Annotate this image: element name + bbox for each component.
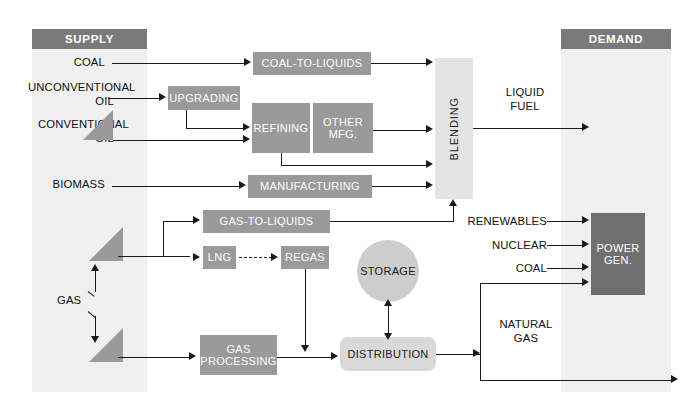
arrowhead-unconv-oil-to-upgrading xyxy=(159,93,166,101)
process-manufacturing[interactable]: MANUFACTURING xyxy=(248,175,372,198)
arrowhead-refining-to-blending xyxy=(426,160,433,168)
process-gas-to-liquids[interactable]: GAS-TO-LIQUIDS xyxy=(203,210,330,233)
arrowhead-coal-to-power-gen xyxy=(582,263,589,271)
distribution-label: DISTRIBUTION xyxy=(347,348,428,360)
connector-renewables-to-power-gen xyxy=(547,221,583,222)
demand-power-gen[interactable]: POWER GEN. xyxy=(591,213,645,295)
arrowhead-coal-to-ctl xyxy=(244,58,251,66)
diagram-canvas: SUPPLY DEMAND COAL UNCONVENTIONAL OIL CO… xyxy=(0,0,697,416)
connector-ctl-to-blending xyxy=(371,63,427,64)
connector-coal-to-ctl xyxy=(112,63,245,64)
connector-natural-gas-to-power-gen xyxy=(480,283,583,284)
arrowhead-natural-gas-to-demand xyxy=(671,375,678,383)
connector-gas-to-gtl xyxy=(163,221,194,222)
arrowhead-blending-to-demand xyxy=(582,123,589,131)
arrowhead-processing-to-distribution xyxy=(331,352,338,360)
process-lng[interactable]: LNG xyxy=(203,246,236,269)
connector-coal-to-power-gen xyxy=(547,268,583,269)
manufacturing-label: MANUFACTURING xyxy=(260,180,360,192)
arrowhead-natural-gas-to-power-gen xyxy=(582,278,589,286)
connector-biomass-to-manufacturing xyxy=(112,186,240,187)
arrowhead-nuclear-to-power-gen xyxy=(582,240,589,248)
lng-label: LNG xyxy=(208,251,232,263)
arrowhead-manufacturing-to-blending xyxy=(426,181,433,189)
connector-gas-riser xyxy=(163,221,164,257)
connector-regas-down xyxy=(305,269,306,347)
connector-natural-gas-to-demand xyxy=(480,380,672,381)
storage-label: STORAGE xyxy=(360,265,416,277)
connector-natural-gas-trunk xyxy=(480,283,481,380)
connector-gas-upper-trunk xyxy=(118,256,190,257)
connector-processing-to-distribution xyxy=(277,357,332,358)
process-storage[interactable]: STORAGE xyxy=(357,240,419,302)
source-label-coal: COAL xyxy=(38,56,105,70)
arrowhead-distribution-out xyxy=(473,349,480,357)
gas-to-liquids-label: GAS-TO-LIQUIDS xyxy=(220,215,314,227)
arrowhead-gas-to-gtl xyxy=(193,216,200,224)
demand-panel xyxy=(561,29,671,392)
connector-gtl-out xyxy=(330,221,454,222)
regas-label: REGAS xyxy=(285,251,325,263)
input-label-renewables: RENEWABLES xyxy=(460,215,547,229)
connector-nuclear-to-power-gen xyxy=(547,245,583,246)
output-label-liquid-fuel: LIQUID FUEL xyxy=(486,86,564,114)
connector-gas-lower-to-processing xyxy=(118,357,190,358)
connector-conv-oil-to-refining xyxy=(113,140,244,141)
process-distribution[interactable]: DISTRIBUTION xyxy=(340,337,436,371)
connector-refining-to-blending xyxy=(281,165,427,166)
arrowhead-renewables-to-power-gen xyxy=(582,216,589,224)
supply-panel-header: SUPPLY xyxy=(32,29,147,49)
demand-header-label: DEMAND xyxy=(589,33,644,45)
process-upgrading[interactable]: UPGRADING xyxy=(168,86,240,110)
process-refining[interactable]: REFINING xyxy=(252,103,310,153)
blending-label: BLENDING xyxy=(448,97,460,160)
other-mfg-label: OTHER MFG. xyxy=(323,116,363,141)
arrowhead-gas-lower-to-processing xyxy=(189,352,196,360)
demand-panel-header: DEMAND xyxy=(561,29,671,49)
gas-processing-label: GAS PROCESSING xyxy=(200,343,276,368)
input-label-nuclear: NUCLEAR xyxy=(465,239,547,253)
source-label-unconventional-oil: UNCONVENTIONAL OIL xyxy=(28,81,114,109)
process-other-mfg[interactable]: OTHER MFG. xyxy=(313,103,373,153)
connector-other-mfg-to-blending xyxy=(373,130,427,131)
arrowhead-lng-to-regas xyxy=(271,253,278,261)
arrowhead-other-mfg-to-blending xyxy=(426,125,433,133)
arrowhead-distribution-to-storage xyxy=(384,299,392,306)
process-coal-to-liquids[interactable]: COAL-TO-LIQUIDS xyxy=(253,52,371,75)
connector-upgrading-to-refining xyxy=(186,128,244,129)
connector-gas-to-lower-wedge xyxy=(95,316,96,338)
arrowhead-gas-to-lower-wedge xyxy=(91,336,99,343)
arrowhead-biomass-to-manufacturing xyxy=(239,181,246,189)
arrowhead-regas-down xyxy=(301,345,309,352)
connector-blending-to-demand xyxy=(473,128,583,129)
process-blending[interactable]: BLENDING xyxy=(435,58,473,199)
arrowhead-upgrading-to-refining xyxy=(243,123,250,131)
connector-refining-down xyxy=(281,153,282,165)
connector-upgrading-down xyxy=(186,110,187,128)
connector-storage-distribution xyxy=(388,303,389,336)
coal-to-liquids-label: COAL-TO-LIQUIDS xyxy=(262,57,363,69)
arrowhead-conv-oil-to-refining xyxy=(243,135,250,143)
connector-manufacturing-to-blending xyxy=(372,186,427,187)
refining-label: REFINING xyxy=(254,122,309,134)
process-regas[interactable]: REGAS xyxy=(281,246,329,269)
upgrading-label: UPGRADING xyxy=(169,92,238,104)
supply-header-label: SUPPLY xyxy=(65,33,114,45)
conventional-oil-wedge-icon xyxy=(83,110,113,140)
input-label-coal-power: COAL xyxy=(474,262,547,276)
connector-gtl-to-blending-riser xyxy=(453,205,454,222)
arrowhead-gas-to-lng xyxy=(193,253,200,261)
process-gas-processing[interactable]: GAS PROCESSING xyxy=(200,335,277,375)
connector-unconv-oil-to-upgrading xyxy=(108,98,160,99)
arrowhead-ctl-to-blending xyxy=(426,58,433,66)
power-gen-label: POWER GEN. xyxy=(596,242,639,267)
arrowhead-gas-to-upper-wedge xyxy=(91,264,99,271)
connector-gas-to-upper-wedge xyxy=(95,270,96,292)
output-label-natural-gas: NATURAL GAS xyxy=(488,318,564,346)
connector-lng-to-regas xyxy=(239,257,272,258)
source-label-biomass: BIOMASS xyxy=(38,178,105,192)
source-label-gas: GAS xyxy=(57,294,87,308)
arrowhead-gtl-to-blending xyxy=(449,199,457,206)
arrowhead-storage-to-distribution xyxy=(384,333,392,340)
